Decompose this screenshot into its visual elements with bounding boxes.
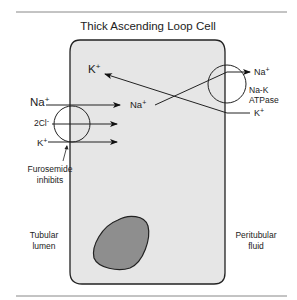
furosemide-arrowhead (65, 145, 69, 150)
pump-name-line2: ATPase (249, 95, 279, 105)
furosemide-label: Furosemide (28, 164, 73, 174)
k-label-peritubular: K+ (254, 107, 264, 118)
cell-body (70, 40, 225, 284)
pump-name-line1: Na-K (249, 85, 269, 95)
na-label-lumen: Na+ (30, 95, 50, 108)
peritubular-fluid-label-line1: Peritubular (235, 230, 276, 240)
k-label-lumen: K+ (37, 137, 47, 148)
na-label-peritubular: Na+ (254, 66, 270, 77)
tubular-lumen-label-line2: lumen (32, 241, 55, 251)
tubular-lumen-label-line1: Tubular (30, 230, 59, 240)
cl-label-lumen: 2Cl- (34, 117, 50, 128)
thick-ascending-loop-diagram: Thick Ascending Loop Cell Na+ 2Cl- K+ Na… (0, 0, 297, 300)
diagram-title: Thick Ascending Loop Cell (80, 20, 216, 32)
inhibits-label: inhibits (37, 175, 63, 185)
peritubular-fluid-label-line2: fluid (248, 241, 264, 251)
